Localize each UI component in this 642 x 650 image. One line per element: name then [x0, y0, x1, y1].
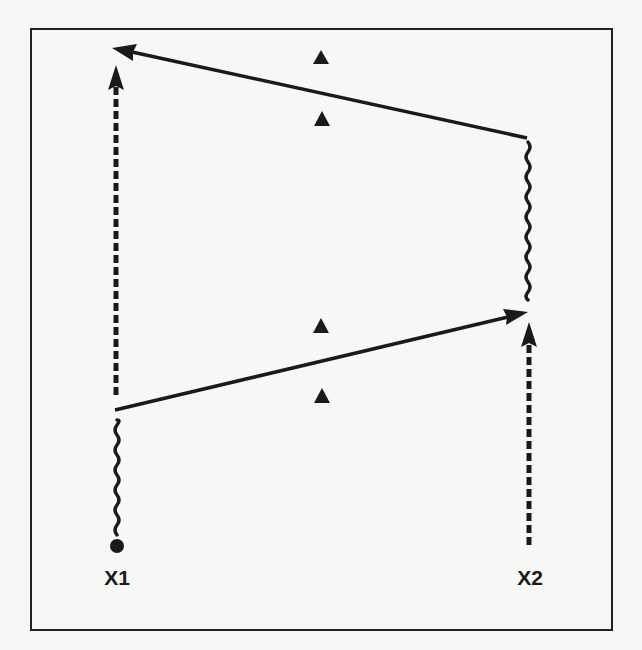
node-label-x2: X2	[517, 566, 543, 589]
x1-arrowhead-icon	[108, 65, 124, 90]
x2-wavy-segment	[526, 142, 530, 300]
triangle-marker-3-icon	[313, 318, 329, 333]
x2-arrowhead-icon	[521, 322, 537, 347]
node-label-x1: X1	[104, 566, 130, 589]
x1-wavy-segment	[115, 420, 119, 535]
triangle-marker-1-icon	[313, 50, 329, 64]
triangle-marker-4-icon	[314, 388, 330, 403]
triangle-marker-2-icon	[314, 111, 330, 126]
message-x1-to-x2	[115, 317, 508, 410]
diagram-canvas: X1 X2	[0, 0, 642, 650]
x1-start-dot	[110, 539, 124, 553]
